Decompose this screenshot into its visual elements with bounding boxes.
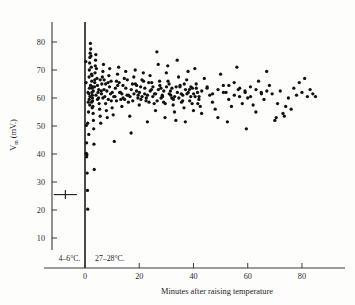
y-axis-tick-label: 80 [37,38,45,47]
data-point [197,95,200,98]
data-point [90,66,93,69]
data-point [99,115,102,118]
data-point [108,85,111,88]
data-point [94,94,97,97]
data-point [96,98,99,101]
data-point [96,84,99,87]
data-point [149,89,152,92]
data-point [132,92,135,95]
data-point [303,77,306,80]
data-point [124,87,127,90]
data-point [177,96,180,99]
data-point [117,66,120,69]
data-point [90,74,93,77]
data-point [166,64,169,67]
data-point [144,99,147,102]
data-point [123,77,126,80]
data-point [226,120,229,123]
data-point [87,110,90,113]
data-point [298,81,301,84]
data-point [129,131,132,134]
y-axis-tick-label: 60 [37,94,45,103]
data-point [92,143,95,146]
scatter-figure: 1020304050607080020406080Minutes after r… [0,0,355,305]
data-point [93,81,96,84]
data-point [181,94,184,97]
data-point [142,71,145,74]
y-axis-tick-label: 40 [37,150,45,159]
data-point [233,81,236,84]
data-point [186,70,189,73]
data-point [292,87,295,90]
data-point [104,102,107,105]
data-point [188,99,191,102]
data-point [84,60,87,63]
data-point [121,84,124,87]
data-point [151,95,154,98]
data-point [115,99,118,102]
data-point [134,68,137,71]
data-point [86,208,89,211]
data-point [300,91,303,94]
data-point [91,85,94,88]
data-point [143,87,146,90]
data-point [270,92,273,95]
y-axis-tick-label: 10 [37,234,45,243]
data-point [289,108,292,111]
data-point [91,96,94,99]
data-point [90,80,93,83]
data-point [145,96,148,99]
annotation-group: 4–6°C.27–28°C. [54,190,125,263]
data-point [138,103,141,106]
data-point [243,91,246,94]
data-point [203,77,206,80]
x-axis-tick-label: 60 [244,272,252,281]
data-point [113,140,116,143]
data-point [200,112,203,115]
cold-phase-error-bar [54,190,77,199]
data-point [135,89,138,92]
data-points-group [84,42,317,211]
data-point [120,105,123,108]
data-point [174,119,177,122]
data-point [227,84,230,87]
data-point [182,106,185,109]
data-point [95,77,98,80]
plot-canvas: 1020304050607080020406080Minutes after r… [0,0,355,305]
data-point [199,105,202,108]
data-point [88,87,91,90]
data-point [150,81,153,84]
data-point [91,112,94,115]
data-point [107,98,110,101]
data-point [95,67,98,70]
data-point [281,112,284,115]
data-point [88,103,91,106]
data-point [96,91,99,94]
data-point [108,67,111,70]
data-point [88,98,91,101]
data-point [165,85,168,88]
data-point [295,94,298,97]
data-point [246,96,249,99]
data-point [189,95,192,98]
data-point [128,95,131,98]
data-point [97,102,100,105]
data-point [173,110,176,113]
data-point [147,101,150,104]
data-point [216,116,219,119]
data-point [185,78,188,81]
data-point [265,89,268,92]
data-point [283,115,286,118]
data-point [106,116,109,119]
data-point [311,92,314,95]
data-point [101,96,104,99]
data-point [105,89,108,92]
data-point [86,122,89,125]
data-point [178,84,181,87]
data-point [127,101,130,104]
data-point [153,102,156,105]
data-point [158,84,161,87]
data-point [89,47,92,50]
data-point [257,80,260,83]
data-point [151,85,154,88]
